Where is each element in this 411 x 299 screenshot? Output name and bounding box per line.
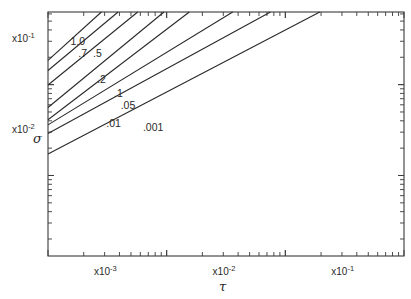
contour-chart: 1.0.7.5.2.1.05.01.001 x10-3x10-2x10-1x10… [0,0,411,299]
contour-label-0.7: .7 [78,47,87,59]
x-decade-label: x10-3 [94,264,117,277]
contour-label-0.05: .05 [121,99,136,111]
y-decade-label: x10-1 [12,31,35,44]
contour-label-0.2: .2 [97,73,106,85]
y-axis-label: σ [33,131,43,146]
contour-curves [48,12,320,154]
x-decade-label: x10-2 [213,264,236,277]
x-axis-label: τ [219,279,227,294]
contour-line-0.05 [48,12,233,125]
contour-line-0.001 [48,12,320,154]
y-decade-label: x10-2 [12,122,35,135]
contour-label-0.01: .01 [106,117,121,129]
contour-line-0.2 [48,12,164,108]
contour-label-1.0: 1.0 [71,35,86,47]
contour-label-0.001: .001 [143,121,164,133]
contour-label-0.1: .1 [114,87,123,99]
contour-label-0.5: .5 [93,47,102,59]
x-decade-label: x10-1 [331,264,354,277]
axis-decade-labels: x10-3x10-2x10-1x10-1x10-2 [12,31,354,277]
